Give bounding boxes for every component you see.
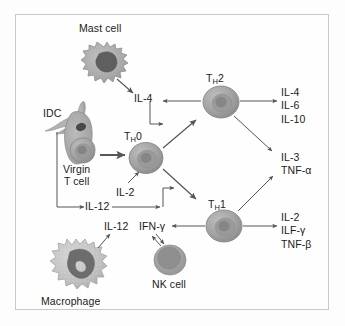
virgin-t-cell-label: Virgin T cell: [63, 163, 90, 188]
shared-product-1: TNF-α: [281, 164, 311, 177]
arrow-il4-down: [150, 101, 163, 124]
th1-label-text: TH1: [208, 198, 226, 210]
arrow-th0-to-th1: [163, 169, 196, 199]
macrophage-graphic: [50, 239, 107, 289]
virgin-t-cell-label-line1: Virgin: [63, 163, 90, 175]
th2-product-2: IL-10: [281, 113, 305, 126]
th1-label: TH1: [208, 198, 226, 211]
th2-products-list: IL-4 IL-6 IL-10: [281, 86, 305, 126]
th2-label: TH2: [206, 72, 224, 85]
th0-label: TH0: [124, 130, 142, 143]
macrophage-label: Macrophage: [41, 295, 100, 307]
shared-product-0: IL-3: [281, 151, 311, 164]
arrow-th1-to-shared: [238, 176, 273, 211]
ifng-nk-label: IFN-γ: [139, 220, 165, 232]
idc-label: IDC: [43, 107, 61, 119]
figure-container: Mast cell IDC Virgin T cell IL-4 TH0 IL-…: [0, 0, 345, 326]
shared-products-list: IL-3 TNF-α: [281, 151, 311, 178]
th0-cell-graphic: [129, 143, 163, 174]
arrow-mast-to-il4: [117, 79, 133, 93]
th1-cell-graphic: [206, 210, 242, 242]
arrow-riser-to-th0: [163, 188, 174, 207]
arrow-macrophage-to-il12: [98, 234, 110, 248]
mast-cell-label: Mast cell: [79, 22, 121, 34]
th2-product-1: IL-6: [281, 99, 305, 112]
il4-mast-label: IL-4: [134, 92, 153, 104]
th0-label-text: TH0: [124, 130, 142, 142]
th2-label-text: TH2: [206, 72, 224, 84]
arrow-th0-to-th2: [163, 120, 196, 148]
th1-product-0: IL-2: [281, 211, 311, 224]
th2-cell-graphic: [203, 86, 239, 118]
mast-cell-graphic: [81, 42, 128, 83]
arrow-nk-to-ifng: [152, 236, 161, 246]
th2-product-0: IL-4: [281, 86, 305, 99]
nk-cell-graphic: [154, 245, 186, 275]
arrow-th2-to-shared: [234, 116, 272, 151]
il2-label: IL-2: [116, 186, 135, 198]
virgin-t-cell-label-line2: T cell: [63, 175, 90, 187]
il12-idc-label: IL-12: [85, 200, 109, 212]
th1-product-1: ILF-γ: [281, 224, 311, 237]
il12-macrophage-label: IL-12: [104, 220, 128, 232]
nk-cell-label: NK cell: [152, 278, 186, 290]
arrow-il2-to-th0: [128, 172, 139, 183]
th1-product-2: TNF-β: [281, 238, 311, 251]
th1-products-list: IL-2 ILF-γ TNF-β: [281, 211, 311, 251]
